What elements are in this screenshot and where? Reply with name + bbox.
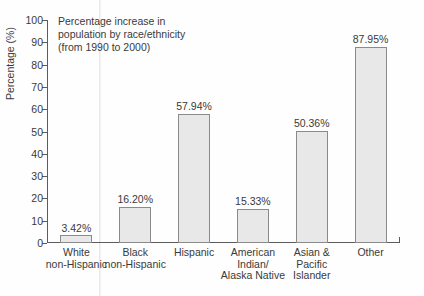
y-axis-line — [47, 20, 48, 243]
bar-value-label: 57.94% — [176, 101, 212, 112]
x-axis-category-label-line: non-Hispanic — [87, 259, 183, 271]
bar-value-label: 15.33% — [235, 196, 271, 207]
y-tick-label: 100 — [25, 15, 43, 26]
x-axis-line — [47, 242, 400, 243]
bar: 16.20% — [119, 207, 151, 243]
y-tick-label: 40 — [31, 149, 43, 160]
y-tick-label: 50 — [31, 126, 43, 137]
bar: 57.94% — [178, 114, 210, 243]
bar-chart-figure: Percentage (%) Percentage increase in po… — [0, 0, 424, 296]
bar-value-label: 50.36% — [294, 118, 330, 129]
bar: 87.95% — [355, 47, 387, 243]
y-tick-label: 10 — [31, 215, 43, 226]
bar-value-label: 16.20% — [117, 194, 153, 205]
bar: 50.36% — [296, 131, 328, 243]
y-tick-label: 70 — [31, 82, 43, 93]
bar: 15.33% — [237, 209, 269, 243]
y-tick-label: 60 — [31, 104, 43, 115]
x-axis-end-tick — [399, 237, 400, 243]
y-axis-title: Percentage (%) — [4, 86, 16, 100]
y-tick-label: 80 — [31, 59, 43, 70]
y-tick-label: 90 — [31, 37, 43, 48]
y-tick-label: 30 — [31, 171, 43, 182]
x-axis-category-label-line: Islander — [264, 270, 360, 282]
plot-area: 0102030405060708090100 3.42%16.20%57.94%… — [47, 20, 400, 243]
bar-value-label: 3.42% — [62, 223, 92, 234]
bar: 3.42% — [60, 235, 92, 243]
bar-value-label: 87.95% — [353, 34, 389, 45]
x-axis-category-label: Other — [323, 247, 419, 259]
x-axis-category-label-line: Other — [323, 247, 419, 259]
y-tick-label: 20 — [31, 193, 43, 204]
